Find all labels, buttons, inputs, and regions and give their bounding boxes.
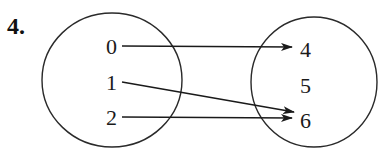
domain-value-0: 0 (106, 34, 117, 59)
domain-value-1: 1 (106, 70, 117, 95)
diagram-svg: 4. 0 1 2 4 5 6 (0, 0, 378, 158)
range-value-6: 6 (300, 108, 311, 133)
domain-value-2: 2 (106, 105, 117, 130)
problem-number: 4. (7, 13, 25, 39)
arrow-1-to-6 (122, 82, 294, 112)
range-value-4: 4 (300, 37, 311, 62)
arrow-0-to-4 (122, 46, 292, 47)
arrow-2-to-6 (122, 117, 292, 118)
range-circle (251, 17, 377, 147)
mapping-diagram-figure: 4. 0 1 2 4 5 6 (0, 0, 378, 158)
range-value-5: 5 (300, 73, 311, 98)
